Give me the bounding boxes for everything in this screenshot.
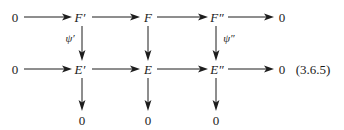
- node-zero-under-Eprime: 0: [79, 114, 86, 127]
- diagram-arrows: [0, 0, 344, 130]
- arrow-vertical-psi-prime: [79, 26, 86, 61]
- arrow-bottom-E-to-Edprime: [157, 66, 208, 73]
- node-top-right-zero: 0: [279, 11, 286, 24]
- arrow-vertical-psi-double-prime: [213, 26, 220, 61]
- node-E-double-prime: E″: [210, 63, 223, 76]
- map-label-psi-prime: ψ′: [65, 33, 74, 44]
- map-label-psi-double-prime: ψ″: [223, 33, 234, 44]
- arrow-bottom-0-to-Eprime: [24, 66, 72, 73]
- arrow-vertical-Edprime-to-zero: [213, 78, 220, 111]
- node-bottom-right-zero: 0: [279, 63, 286, 76]
- node-F: F: [144, 11, 152, 24]
- arrow-bottom-Edprime-to-0: [228, 66, 274, 73]
- node-zero-under-Edprime: 0: [213, 114, 220, 127]
- equation-number: (3.6.5): [296, 63, 331, 76]
- arrow-bottom-Eprime-to-E: [92, 66, 140, 73]
- arrow-top-0-to-Fprime: [24, 14, 72, 21]
- node-F-double-prime: F″: [210, 11, 223, 24]
- arrow-top-Fprime-to-F: [92, 14, 140, 21]
- arrow-top-F-to-Fdprime: [157, 14, 208, 21]
- commutative-diagram: 0 F′ F F″ 0 ψ′ ψ″ 0 E′ E E″ 0 (3.6.5) 0 …: [0, 0, 344, 130]
- node-E: E: [144, 63, 152, 76]
- arrow-vertical-E-to-zero: [145, 78, 152, 111]
- node-top-left-zero: 0: [12, 11, 19, 24]
- arrow-vertical-middle: [145, 26, 152, 61]
- node-zero-under-E: 0: [145, 114, 152, 127]
- node-F-prime: F′: [75, 11, 86, 24]
- arrow-vertical-Eprime-to-zero: [79, 78, 86, 111]
- node-bottom-left-zero: 0: [12, 63, 19, 76]
- arrow-top-Fdprime-to-0: [228, 14, 274, 21]
- node-E-prime: E′: [75, 63, 86, 76]
